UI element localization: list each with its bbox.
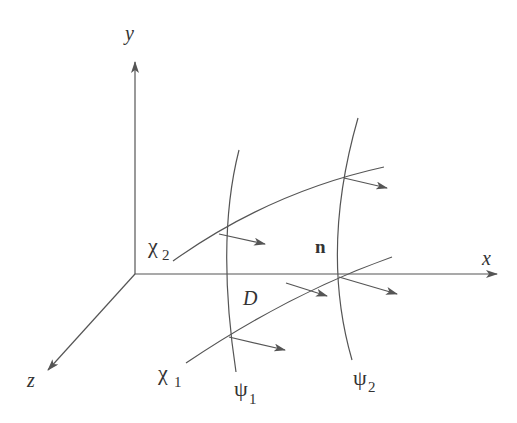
chi1-label: χ	[157, 360, 168, 385]
normal-vectors	[219, 178, 397, 350]
chi1-subscript: 1	[174, 374, 182, 390]
normal-arrow-chi1-psi1	[229, 337, 285, 350]
z-axis	[48, 274, 135, 370]
x-axis-label: x	[481, 247, 491, 269]
z-axis-label: z	[26, 369, 35, 391]
region-d-label: D	[242, 287, 258, 309]
y-axis-label: y	[123, 22, 134, 45]
normal-arrow-chi1-psi2	[339, 277, 397, 294]
normal-arrow-chi2-psi2	[344, 178, 387, 188]
psi2-symbol: ψ	[353, 365, 367, 390]
normal-arrow-n	[286, 283, 327, 296]
psi1-label: ψ	[234, 376, 248, 401]
chi2-symbol: χ	[147, 233, 158, 258]
psi1-subscript: 1	[249, 391, 257, 407]
normal-n-label: n	[315, 236, 326, 257]
coordinate-curves	[173, 118, 392, 372]
chi2-label: χ	[147, 233, 158, 258]
psi2-curve	[337, 118, 358, 360]
chi1-curve	[186, 257, 392, 363]
chi2-subscript: 2	[162, 247, 170, 263]
axes	[48, 62, 497, 370]
psi2-subscript: 2	[368, 379, 376, 395]
psi2-label: ψ	[353, 365, 367, 390]
chi1-symbol: χ	[157, 360, 168, 385]
chi2-curve	[173, 167, 384, 261]
psi1-symbol: ψ	[234, 376, 248, 401]
normal-arrow-chi2-psi1	[219, 234, 265, 244]
diagram-canvas: y x z D n χ 2 χ 1 ψ 1 ψ 2	[0, 0, 517, 423]
